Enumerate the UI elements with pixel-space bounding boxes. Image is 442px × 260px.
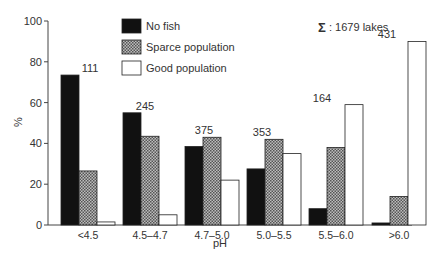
x-axis-label: pH [213,237,227,249]
y-tick-label: 100 [24,15,42,27]
group-total-label: 353 [253,126,271,138]
bar-sparce-population [141,136,159,225]
y-axis-label: % [12,117,24,127]
bar-no-fish [123,113,141,225]
bar-sparce-population [79,171,97,225]
legend-label: Good population [146,62,227,74]
group-total-label: 111 [82,62,99,74]
total-annotation: Σ : 1679 lakes [318,20,389,35]
sigma-symbol: Σ [318,20,326,35]
x-tick-label: >6.0 [389,229,410,241]
x-tick-label: 4.5–4.7 [132,229,167,241]
x-tick-label: <4.5 [78,229,99,241]
x-tick-label: 5.5–6.0 [318,229,353,241]
bar-good-population [408,41,426,225]
bar-good-population [221,180,239,225]
legend-label: No fish [146,20,180,32]
legend-label: Sparce population [146,41,235,53]
total-lakes-text: : 1679 lakes [329,21,389,33]
bar-sparce-population [203,137,221,225]
bar-no-fish [247,169,265,225]
bar-no-fish [185,146,203,225]
bar-no-fish [61,75,79,225]
y-tick-label: 20 [30,178,42,190]
y-tick-label: 40 [30,137,42,149]
bar-good-population [159,215,177,225]
bar-no-fish [309,209,327,225]
x-tick-label: 5.0–5.5 [256,229,291,241]
bar-sparce-population [327,147,345,225]
bar-no-fish [372,223,390,225]
y-tick-label: 60 [30,97,42,109]
legend: No fishSparce populationGood population [122,19,235,75]
legend-swatch [122,19,141,33]
y-tick-label: 0 [36,219,42,231]
legend-swatch [122,61,141,75]
bar-good-population [283,154,301,225]
bar-chart: 020406080100 111<4.52454.5–4.73754.7–5.0… [0,0,442,260]
bar-sparce-population [390,196,408,225]
bar-good-population [345,105,363,225]
legend-swatch [122,40,141,54]
group-total-label: 375 [195,124,213,136]
group-total-label: 245 [136,100,154,112]
bar-sparce-population [265,139,283,225]
bar-good-population [97,222,115,225]
bars [61,41,426,225]
group-total-label: 164 [313,92,331,104]
y-tick-label: 80 [30,56,42,68]
